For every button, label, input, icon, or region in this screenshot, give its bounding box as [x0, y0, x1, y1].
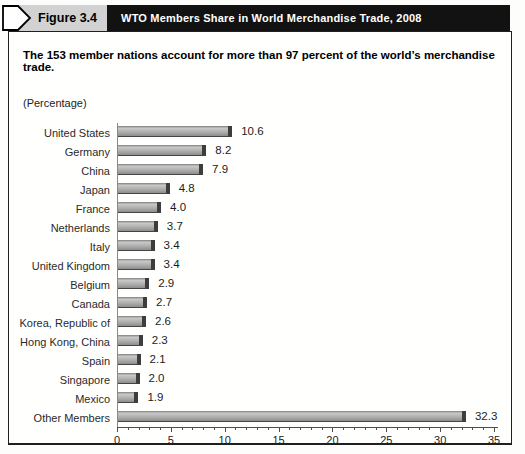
value-label: 2.9 — [158, 277, 174, 289]
x-axis-tick — [279, 427, 280, 432]
bar-row: Belgium2.9 — [17, 275, 499, 294]
bar — [118, 411, 466, 422]
x-axis-tick — [472, 427, 473, 430]
x-axis-tick — [332, 427, 333, 432]
figure-title-bar: WTO Members Share in World Merchandise T… — [107, 5, 510, 31]
bar-row: Other Members32.3 — [17, 408, 499, 427]
bar — [118, 354, 141, 365]
x-axis-tick-label: 25 — [374, 434, 398, 446]
figure-header: Figure 3.4 WTO Members Share in World Me… — [2, 5, 510, 31]
value-label: 2.6 — [155, 315, 171, 327]
x-axis-tick — [128, 427, 129, 430]
value-label: 32.3 — [475, 410, 497, 422]
bar-row: Italy3.4 — [17, 237, 499, 256]
figure-subtitle: The 153 member nations account for more … — [23, 49, 499, 73]
bar-row: Mexico1.9 — [17, 389, 499, 408]
bar-track: 2.3 — [117, 332, 499, 351]
bar-track: 32.3 — [117, 408, 499, 427]
x-axis-tick — [311, 427, 312, 430]
value-label: 4.8 — [179, 182, 195, 194]
figure-title: WTO Members Share in World Merchandise T… — [121, 12, 422, 24]
value-label: 7.9 — [212, 163, 228, 175]
bar — [118, 259, 155, 270]
x-axis-tick — [192, 427, 193, 430]
figure-page: Figure 3.4 WTO Members Share in World Me… — [0, 0, 525, 454]
category-label: France — [17, 203, 117, 215]
x-axis-tick — [203, 427, 204, 430]
category-label: Korea, Republic of — [17, 317, 117, 329]
bar-row: France4.0 — [17, 199, 499, 218]
value-label: 2.7 — [156, 296, 172, 308]
bar-track: 8.2 — [117, 142, 499, 161]
x-axis-tick — [397, 427, 398, 430]
x-axis-tick — [171, 427, 172, 432]
x-axis-tick-label: 20 — [320, 434, 344, 446]
value-label: 2.3 — [152, 334, 168, 346]
category-label: Netherlands — [17, 222, 117, 234]
value-label: 3.4 — [164, 258, 180, 270]
category-label: Other Members — [17, 412, 117, 424]
value-label: 10.6 — [241, 125, 263, 137]
x-axis-tick — [268, 427, 269, 430]
x-axis-tick — [225, 427, 226, 432]
bar — [118, 126, 232, 137]
bar-track: 2.7 — [117, 294, 499, 313]
bar-row: Singapore2.0 — [17, 370, 499, 389]
x-axis-tick — [160, 427, 161, 430]
x-axis-tick — [117, 427, 118, 432]
unit-label: (Percentage) — [23, 97, 499, 109]
category-label: Italy — [17, 241, 117, 253]
x-axis-tick — [429, 427, 430, 430]
bar-track: 4.0 — [117, 199, 499, 218]
x-axis-tick — [408, 427, 409, 430]
x-axis-tick — [494, 427, 495, 432]
bar-track: 7.9 — [117, 161, 499, 180]
bar — [118, 297, 147, 308]
bar-row: United States10.6 — [17, 123, 499, 142]
x-axis-tick — [451, 427, 452, 430]
x-axis-tick — [386, 427, 387, 432]
x-axis-tick — [257, 427, 258, 430]
bar-row: United Kingdom3.4 — [17, 256, 499, 275]
x-axis-tick-label: 10 — [213, 434, 237, 446]
x-axis-tick — [365, 427, 366, 430]
x-axis-tick — [322, 427, 323, 430]
bar-row: Korea, Republic of2.6 — [17, 313, 499, 332]
x-axis-tick — [440, 427, 441, 432]
bar-track: 3.7 — [117, 218, 499, 237]
bar-track: 4.8 — [117, 180, 499, 199]
category-label: Hong Kong, China — [17, 336, 117, 348]
bar — [118, 183, 170, 194]
bar-track: 2.0 — [117, 370, 499, 389]
x-axis-tick — [376, 427, 377, 430]
figure-label: Figure 3.4 — [38, 11, 97, 25]
bar-track: 3.4 — [117, 237, 499, 256]
bar-chart: United States10.6Germany8.2China7.9Japan… — [17, 123, 499, 453]
category-label: Singapore — [17, 374, 117, 386]
x-axis-tick — [419, 427, 420, 430]
bar-row: Hong Kong, China2.3 — [17, 332, 499, 351]
x-axis-tick — [300, 427, 301, 430]
category-label: Japan — [17, 184, 117, 196]
value-label: 2.1 — [150, 353, 166, 365]
x-axis-tick — [182, 427, 183, 430]
bar — [118, 164, 203, 175]
bar-row: Netherlands3.7 — [17, 218, 499, 237]
x-axis-tick-label: 35 — [482, 434, 506, 446]
bar-track: 10.6 — [117, 123, 499, 142]
bar — [118, 240, 155, 251]
bar — [118, 316, 146, 327]
category-label: Mexico — [17, 393, 117, 405]
category-label: Germany — [17, 146, 117, 158]
x-axis-tick — [483, 427, 484, 430]
chart-rows: United States10.6Germany8.2China7.9Japan… — [17, 123, 499, 427]
value-label: 1.9 — [147, 391, 163, 403]
bar-track: 2.9 — [117, 275, 499, 294]
bar — [118, 202, 161, 213]
x-axis-tick — [139, 427, 140, 430]
value-label: 8.2 — [215, 144, 231, 156]
bar — [118, 278, 149, 289]
bar — [118, 221, 158, 232]
category-label: Canada — [17, 298, 117, 310]
x-axis: 05101520253035 — [117, 427, 499, 453]
